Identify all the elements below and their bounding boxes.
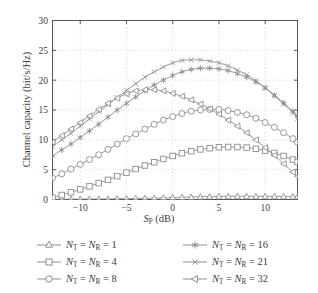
x-tick-label: 10 <box>260 203 270 213</box>
legend-item-nt-nr-32: NT = NR = 32 <box>182 270 268 287</box>
y-tick-label: 30 <box>39 16 49 26</box>
y-tick-label: 15 <box>39 105 49 115</box>
y-tick-label: 20 <box>39 76 49 86</box>
legend-item-nt-nr-1: NT = NR = 1 <box>36 236 117 253</box>
legend-label-8: NT = NR = 8 <box>66 273 117 284</box>
legend-item-nt-nr-8: NT = NR = 8 <box>36 270 117 287</box>
legend-item-nt-nr-21: NT = NR = 21 <box>182 253 268 270</box>
y-axis-label: Channel capacity (bit/s/Hz) <box>21 20 32 200</box>
legend-label-21: NT = NR = 21 <box>212 256 268 267</box>
legend-value-32: 32 <box>258 273 269 284</box>
legend-label-1: NT = NR = 1 <box>66 239 117 250</box>
chart-figure: −10−50510051015202530 Channel capacity (… <box>0 0 318 293</box>
legend-item-nt-nr-16: NT = NR = 16 <box>182 236 268 253</box>
series-square <box>50 144 301 200</box>
legend-item-nt-nr-4: NT = NR = 4 <box>36 253 117 270</box>
legend-marker-asterisk-icon <box>182 238 208 252</box>
x-axis-label-unit: (dB) <box>153 213 175 224</box>
x-tick-label: 5 <box>217 203 222 213</box>
chart-legend: NT = NR = 1 NT = NR = 4 NT = NR = 8 NT =… <box>0 236 318 293</box>
legend-value-21: 21 <box>258 256 269 267</box>
y-tick-label: 5 <box>43 165 48 175</box>
x-tick-label: 0 <box>170 203 175 213</box>
x-axis-label: SP (dB) <box>0 213 318 224</box>
x-axis-label-subscript: P <box>149 218 153 226</box>
legend-value-16: 16 <box>258 239 269 250</box>
x-axis-label-symbol: S <box>143 213 148 224</box>
series-x-thin <box>50 57 300 148</box>
x-tick-label: −5 <box>121 203 131 213</box>
legend-marker-square-icon <box>36 255 62 269</box>
legend-label-16: NT = NR = 16 <box>212 239 268 250</box>
legend-label-4: NT = NR = 4 <box>66 256 117 267</box>
y-tick-label: 10 <box>39 135 49 145</box>
legend-value-1: 1 <box>112 239 117 250</box>
legend-column-left: NT = NR = 1 NT = NR = 4 NT = NR = 8 <box>36 236 117 287</box>
y-tick-label: 0 <box>43 195 48 205</box>
legend-marker-x-thin-icon <box>182 255 208 269</box>
series-triangle-up <box>50 193 301 202</box>
legend-value-4: 4 <box>112 256 117 267</box>
legend-column-right: NT = NR = 16 NT = NR = 21 NT = NR = 32 <box>182 236 268 287</box>
legend-value-8: 8 <box>112 273 117 284</box>
x-tick-label: −10 <box>73 203 88 213</box>
legend-marker-circle-icon <box>36 272 62 286</box>
legend-marker-triangle-left-icon <box>182 272 208 286</box>
y-tick-label: 25 <box>39 46 49 56</box>
legend-label-32: NT = NR = 32 <box>212 273 268 284</box>
legend-marker-triangle-up-icon <box>36 238 62 252</box>
